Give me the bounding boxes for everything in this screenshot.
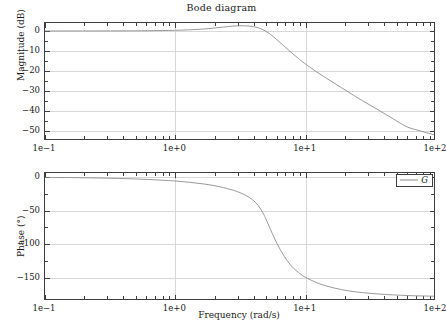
xtick-label: 1e+2 — [424, 143, 446, 153]
magnitude-plot-frame — [44, 22, 435, 140]
phase-axis-title: Phase (°) — [16, 215, 26, 257]
xtick-label: 1e−1 — [33, 303, 56, 313]
xtick-label: 1e+2 — [424, 303, 446, 313]
legend-label-G: G — [421, 176, 428, 185]
phase-axes: 0−50−100−150 1e−11e+01e+11e+2 G — [44, 172, 435, 300]
phase-curve — [45, 173, 434, 300]
ytick-label: −50 — [12, 125, 40, 135]
magnitude-curve — [45, 23, 434, 140]
ytick-label: −150 — [12, 272, 40, 282]
magnitude-axes: 0−10−20−30−40−50 1e−11e+01e+11e+2 — [44, 22, 435, 140]
xtick-label: 1e+1 — [293, 143, 316, 153]
magnitude-axis-title: Magnitude (dB) — [16, 9, 26, 81]
ytick-label: 0 — [12, 171, 40, 181]
ytick-label: −50 — [12, 205, 40, 215]
legend[interactable]: G — [396, 174, 433, 187]
ytick-label: −30 — [12, 85, 40, 95]
figure-title: Bode diagram — [0, 2, 443, 13]
xtick-label: 1e+1 — [293, 303, 316, 313]
phase-plot-frame — [44, 172, 435, 300]
xtick-label: 1e−1 — [33, 143, 56, 153]
frequency-axis-title: Frequency (rad/s) — [198, 310, 280, 320]
legend-line-swatch — [400, 177, 418, 183]
ytick-label: −40 — [12, 105, 40, 115]
xtick-label: 1e+0 — [163, 303, 186, 313]
xtick-label: 1e+0 — [163, 143, 186, 153]
